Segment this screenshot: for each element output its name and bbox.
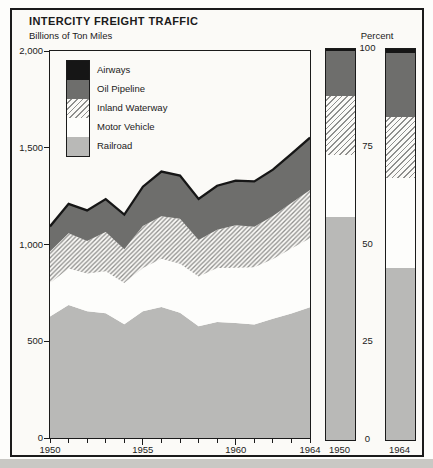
percent-axis-title: Percent: [337, 30, 417, 42]
legend-swatch-railroad: [67, 137, 89, 156]
percent-bar-year-label: 1950: [315, 444, 364, 456]
percent-axis-tick-label: 75: [354, 140, 381, 152]
x-axis-tick-label: 1960: [221, 444, 251, 456]
y-axis-tick-label: 1,500: [12, 142, 43, 154]
y-axis-tick-label: 500: [12, 335, 43, 347]
x-axis-tickmark: [87, 439, 88, 443]
figure-title: INTERCITY FREIGHT TRAFFIC: [29, 15, 198, 27]
percent-axis-tick-label: 50: [354, 238, 381, 250]
percent-segment-oil_pipeline: [326, 51, 355, 96]
y-axis-tickmark: [44, 341, 49, 342]
y-axis-tickmark: [44, 244, 49, 245]
x-axis-tickmark: [68, 439, 69, 443]
y-axis-tick-label: 1,000: [12, 239, 43, 251]
percent-axis-tick-label: 25: [354, 335, 381, 347]
x-axis-tickmark: [180, 439, 181, 443]
x-axis-tickmark: [124, 439, 125, 443]
legend-swatch-motor_vehicle: [67, 118, 89, 137]
x-axis-tickmark: [310, 439, 311, 443]
percent-bar-1964: [385, 48, 416, 441]
x-axis-tickmark: [272, 439, 273, 443]
x-axis-tickmark: [198, 439, 199, 443]
x-axis-tickmark: [217, 439, 218, 443]
legend-label-railroad: Railroad: [97, 136, 132, 155]
legend-label-motor_vehicle: Motor Vehicle: [97, 117, 155, 136]
legend-swatch-inland_waterway: [67, 99, 89, 118]
percent-segment-motor_vehicle: [326, 155, 355, 218]
x-axis-tick-label: 1950: [35, 444, 65, 456]
percent-segment-railroad: [326, 217, 355, 440]
percent-segment-oil_pipeline: [386, 53, 415, 118]
y-axis-tickmark: [44, 438, 49, 439]
x-axis-tickmark: [161, 439, 162, 443]
page-scan-edge: [0, 459, 433, 468]
y-axis-tickmark: [44, 51, 49, 52]
percent-axis-tick-label: 100: [354, 42, 381, 54]
x-axis-tickmark: [105, 439, 106, 443]
y-axis-tickmark: [44, 147, 49, 148]
area-railroad: [50, 305, 310, 438]
legend-label-oil_pipeline: Oil Pipeline: [97, 79, 145, 98]
legend-label-airways: Airways: [97, 60, 130, 79]
y-axis-tick-label: 0: [12, 432, 43, 444]
percent-axis-tick-label: 0: [354, 433, 381, 445]
percent-segment-airways: [326, 49, 355, 51]
legend-swatch-oil_pipeline: [67, 80, 89, 99]
legend-label-inland_waterway: Inland Waterway: [97, 98, 167, 117]
percent-bar-year-label: 1964: [375, 444, 424, 456]
y-axis-tick-label: 2,000: [12, 45, 43, 57]
percent-segment-inland_waterway: [386, 117, 415, 178]
figure-frame: INTERCITY FREIGHT TRAFFIC Billions of To…: [10, 8, 424, 457]
x-axis-tickmark: [254, 439, 255, 443]
x-axis-tick-label: 1955: [128, 444, 158, 456]
percent-segment-airways: [386, 49, 415, 53]
legend-swatch-airways: [67, 61, 89, 80]
x-axis-tickmark: [50, 439, 51, 443]
percent-bar-1950: [325, 48, 356, 441]
legend-swatch-column: [66, 60, 90, 157]
x-axis-tickmark: [291, 439, 292, 443]
percent-segment-inland_waterway: [326, 96, 355, 155]
figure-subtitle: Billions of Ton Miles: [29, 30, 112, 41]
percent-segment-motor_vehicle: [386, 178, 415, 268]
percent-segment-railroad: [386, 268, 415, 440]
